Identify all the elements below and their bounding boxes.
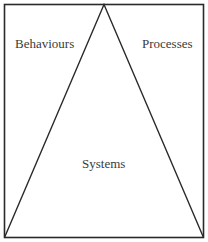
processes-label: Processes: [142, 37, 193, 50]
systems-label: Systems: [82, 157, 125, 170]
behaviours-label: Behaviours: [15, 37, 74, 50]
